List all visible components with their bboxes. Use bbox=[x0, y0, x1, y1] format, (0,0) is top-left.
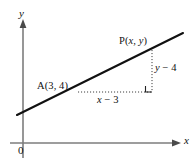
x-axis-label: x bbox=[184, 135, 189, 146]
rise-minus-sign: − bbox=[160, 62, 171, 73]
rise-label: y − 4 bbox=[155, 63, 177, 74]
run-label: x − 3 bbox=[97, 95, 119, 106]
y-axis-label: y bbox=[19, 8, 24, 19]
figure-canvas bbox=[0, 0, 196, 166]
run-value: 3 bbox=[113, 94, 118, 105]
point-a-label: A(3, 4) bbox=[37, 81, 68, 92]
origin-label: 0 bbox=[18, 145, 24, 156]
point-p-prefix: P( bbox=[119, 35, 129, 46]
run-minus-sign: − bbox=[102, 94, 113, 105]
x-axis-arrow-icon bbox=[172, 140, 181, 147]
right-angle-marker-icon bbox=[146, 86, 153, 92]
point-p-suffix: ) bbox=[144, 35, 148, 46]
rise-value: 4 bbox=[171, 62, 176, 73]
point-p-label: P(x, y) bbox=[119, 36, 147, 47]
geometry-figure: y x 0 A(3, 4) P(x, y) x − 3 y − 4 bbox=[0, 0, 196, 166]
y-axis-arrow-icon bbox=[20, 19, 27, 28]
